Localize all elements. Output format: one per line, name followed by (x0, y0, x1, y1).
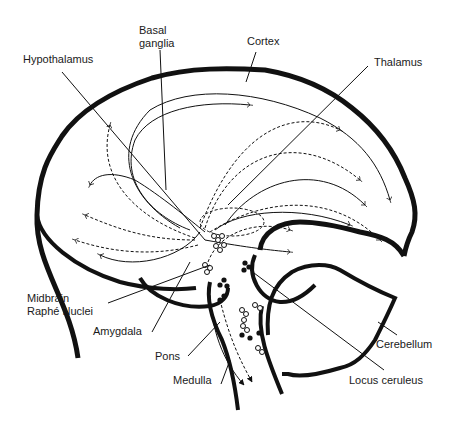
label-basal-ganglia-line1: Basal (139, 24, 167, 37)
label-midbrain-line1: Midbrain (27, 292, 69, 305)
label-cortex: Cortex (247, 35, 279, 48)
label-thalamus: Thalamus (374, 56, 422, 69)
label-hypothalamus: Hypothalamus (23, 53, 93, 66)
cortex-outline (37, 69, 415, 358)
label-medulla: Medulla (173, 374, 212, 387)
label-pons: Pons (155, 350, 180, 363)
label-basal-ganglia-line2: ganglia (139, 37, 174, 50)
temporal-outline (37, 215, 196, 289)
label-cerebellum: Cerebellum (376, 338, 432, 351)
label-locus-ceruleus: Locus ceruleus (349, 374, 423, 387)
label-midbrain-line2: Raphé Nuclei (27, 305, 93, 318)
label-amygdala: Amygdala (93, 325, 142, 338)
